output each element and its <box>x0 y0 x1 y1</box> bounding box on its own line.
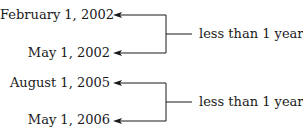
bracket-2 <box>118 83 166 121</box>
bracket-arrows <box>0 0 303 134</box>
bracket-1 <box>118 15 166 53</box>
